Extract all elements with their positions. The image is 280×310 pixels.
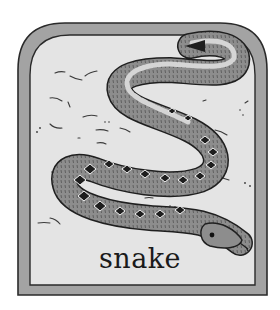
snake-flashcard: snake bbox=[0, 0, 280, 310]
word-label: snake bbox=[0, 243, 280, 274]
snake-eye bbox=[210, 233, 215, 238]
